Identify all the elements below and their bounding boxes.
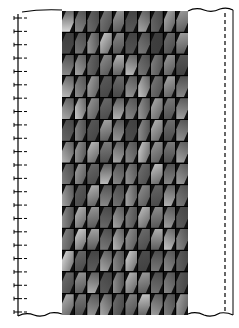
image-tile <box>87 76 99 97</box>
image-tile <box>62 229 74 250</box>
tile-image-shape <box>138 251 150 272</box>
image-tile <box>100 251 112 272</box>
image-tile <box>75 251 87 272</box>
tile-image-shape <box>62 294 74 315</box>
tile-image-shape <box>125 76 137 97</box>
tile-image-shape <box>164 33 176 54</box>
tile-image-shape <box>125 55 137 76</box>
tile-image-shape <box>62 55 74 76</box>
tile-image-shape <box>176 76 188 97</box>
tile-image-shape <box>75 185 87 206</box>
tile-image-shape <box>113 98 125 119</box>
tile-image-shape <box>87 142 99 163</box>
tile-image-shape <box>176 98 188 119</box>
image-tile <box>62 55 74 76</box>
image-tile <box>100 55 112 76</box>
tile-image-shape <box>176 272 188 293</box>
wavy-top-edge-right <box>188 8 233 11</box>
image-tile <box>176 98 188 119</box>
image-tile <box>176 251 188 272</box>
image-tile <box>138 251 150 272</box>
image-tile <box>113 207 125 228</box>
image-tile <box>151 164 163 185</box>
tile-image-shape <box>138 76 150 97</box>
image-tile <box>87 185 99 206</box>
image-tile <box>176 229 188 250</box>
tile-image-shape <box>100 294 112 315</box>
left-ruler-ticks <box>14 16 27 314</box>
tile-image-shape <box>62 142 74 163</box>
tile-image-shape <box>87 11 99 32</box>
image-tile <box>113 76 125 97</box>
image-tile <box>62 185 74 206</box>
image-tile <box>151 55 163 76</box>
image-tile <box>87 98 99 119</box>
tile-image-shape <box>87 294 99 315</box>
image-tile <box>100 120 112 141</box>
image-tile <box>113 98 125 119</box>
tile-image-shape <box>151 229 163 250</box>
image-tile <box>138 164 150 185</box>
tile-image-shape <box>164 294 176 315</box>
image-tile <box>125 120 137 141</box>
image-tile <box>176 76 188 97</box>
image-tile <box>176 294 188 315</box>
image-tile <box>87 142 99 163</box>
tile-image-shape <box>125 185 137 206</box>
image-tile <box>100 272 112 293</box>
tile-image-shape <box>100 33 112 54</box>
image-tile <box>138 11 150 32</box>
tile-image-shape <box>164 98 176 119</box>
tile-image-shape <box>176 11 188 32</box>
image-tile <box>75 272 87 293</box>
tile-image-shape <box>62 33 74 54</box>
tile-image-shape <box>138 11 150 32</box>
image-tile <box>151 120 163 141</box>
tile-image-shape <box>176 164 188 185</box>
image-tile <box>100 164 112 185</box>
tile-image-shape <box>151 251 163 272</box>
tile-image-shape <box>164 164 176 185</box>
tile-image-shape <box>87 98 99 119</box>
image-tile <box>164 11 176 32</box>
tile-image-shape <box>138 185 150 206</box>
image-tile <box>113 251 125 272</box>
tile-image-shape <box>75 33 87 54</box>
tile-image-shape <box>138 142 150 163</box>
image-tile <box>113 120 125 141</box>
image-tile <box>125 272 137 293</box>
tile-image-shape <box>151 294 163 315</box>
image-tile <box>75 142 87 163</box>
tile-image-shape <box>113 272 125 293</box>
tile-image-shape <box>138 272 150 293</box>
image-tile <box>151 272 163 293</box>
tile-image-shape <box>164 55 176 76</box>
image-tile <box>125 76 137 97</box>
image-tile <box>75 33 87 54</box>
image-tile <box>75 207 87 228</box>
image-tile <box>125 164 137 185</box>
tile-image-shape <box>87 185 99 206</box>
tile-image-shape <box>62 164 74 185</box>
image-tile <box>62 142 74 163</box>
image-tile <box>87 229 99 250</box>
image-tile <box>138 120 150 141</box>
image-tile <box>151 229 163 250</box>
image-tile <box>87 164 99 185</box>
tile-image-shape <box>100 11 112 32</box>
image-tile <box>62 11 74 32</box>
image-tile <box>176 207 188 228</box>
tile-image-shape <box>125 120 137 141</box>
tile-image-shape <box>138 98 150 119</box>
tile-image-shape <box>100 207 112 228</box>
image-tile <box>113 272 125 293</box>
tile-image-shape <box>176 294 188 315</box>
tile-image-shape <box>75 229 87 250</box>
tile-image-shape <box>113 142 125 163</box>
image-tile <box>75 120 87 141</box>
image-tile <box>62 98 74 119</box>
image-tile <box>164 55 176 76</box>
tile-image-shape <box>164 120 176 141</box>
image-tile <box>62 294 74 315</box>
image-tile <box>75 76 87 97</box>
